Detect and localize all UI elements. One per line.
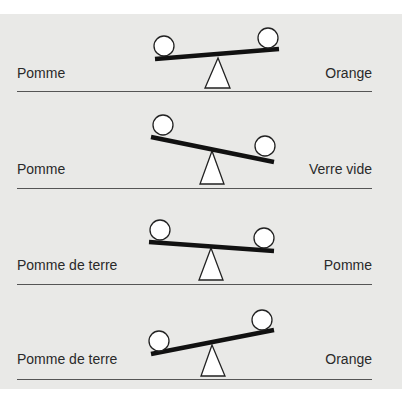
seesaw-2 — [151, 115, 275, 184]
row-divider — [17, 91, 372, 92]
left-object-label: Pomme de terre — [17, 351, 117, 367]
row-divider — [17, 188, 372, 189]
seesaw-3 — [149, 220, 274, 280]
seesaw-1 — [154, 28, 279, 88]
right-object-label: Orange — [325, 65, 372, 81]
fulcrum-triangle-icon — [199, 248, 223, 280]
right-object-label: Pomme — [324, 257, 372, 273]
row-divider — [17, 284, 372, 285]
left-object-label: Pomme de terre — [17, 257, 117, 273]
seesaw-scene — [0, 0, 406, 398]
right-object-label: Verre vide — [309, 161, 372, 177]
left-object-ball-icon — [149, 331, 169, 351]
fulcrum-triangle-icon — [200, 151, 224, 184]
left-object-label: Pomme — [17, 161, 65, 177]
fulcrum-triangle-icon — [201, 345, 225, 376]
right-object-label: Orange — [325, 351, 372, 367]
left-object-ball-icon — [150, 220, 170, 240]
fulcrum-triangle-icon — [205, 58, 230, 88]
left-object-ball-icon — [154, 36, 174, 56]
right-object-ball-icon — [258, 28, 278, 48]
row-divider — [17, 379, 372, 380]
left-object-ball-icon — [153, 115, 173, 135]
left-object-label: Pomme — [17, 65, 65, 81]
right-object-ball-icon — [255, 136, 275, 156]
right-object-ball-icon — [254, 228, 274, 248]
right-object-ball-icon — [252, 310, 272, 330]
seesaw-4 — [149, 310, 274, 376]
